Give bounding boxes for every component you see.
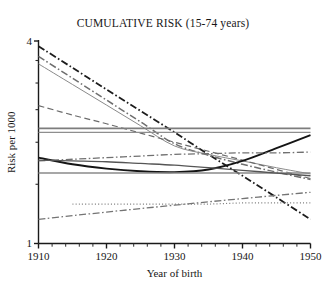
chart-series-line (39, 64, 311, 174)
chart-series-line (39, 152, 311, 161)
chart-series-line (39, 106, 311, 179)
chart-plot-area: 1419101920193019401950Year of birthRisk … (0, 0, 326, 284)
x-axis-tick-label: 1910 (28, 250, 51, 262)
y-axis-tick-label: 4 (27, 35, 33, 47)
x-axis-tick-label: 1940 (232, 250, 255, 262)
chart-series-line (39, 192, 311, 219)
y-axis-tick-label: 1 (27, 237, 33, 249)
x-axis-tick-label: 1950 (300, 250, 323, 262)
axes-group (34, 40, 311, 249)
x-axis-tick-label: 1920 (96, 250, 119, 262)
axis-labels-group: 1419101920193019401950Year of birthRisk … (5, 35, 322, 279)
chart-figure: CUMULATIVE RISK (15-74 years) 1419101920… (0, 0, 326, 284)
y-axis-title: Risk per 1000 (5, 111, 17, 173)
x-axis-title: Year of birth (147, 267, 203, 279)
x-axis-tick-label: 1930 (164, 250, 187, 262)
series-group (39, 46, 311, 219)
